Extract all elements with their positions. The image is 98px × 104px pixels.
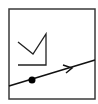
crown-shape (18, 34, 46, 65)
diagram-canvas (0, 0, 98, 104)
ray-line (9, 60, 95, 86)
frame-box (9, 9, 95, 99)
point-dot (29, 77, 36, 84)
